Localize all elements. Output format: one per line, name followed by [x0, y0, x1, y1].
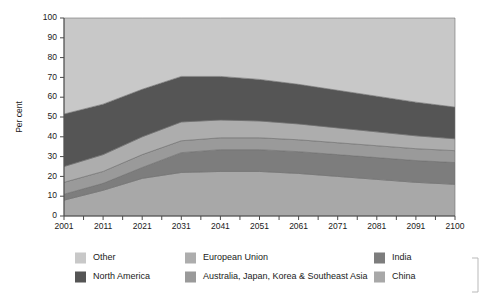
y-tick-label-10: 10: [48, 190, 58, 200]
y-tick-label-20: 20: [48, 171, 58, 181]
legend-label-china: China: [392, 271, 416, 281]
y-tick-label-90: 90: [48, 32, 58, 42]
x-tick-label-2051: 2051: [250, 221, 269, 231]
false: [75, 253, 86, 264]
false: [185, 272, 196, 283]
legend-label-other: Other: [93, 252, 116, 262]
chart-canvas: 0102030405060708090100200120112021203120…: [0, 0, 483, 299]
y-tick-label-40: 40: [48, 131, 58, 141]
chart-legend: OtherEuropean UnionIndiaNorth AmericaAus…: [75, 252, 416, 282]
x-tick-label-2011: 2011: [94, 221, 113, 231]
x-tick-label-2081: 2081: [367, 221, 386, 231]
legend-label-north-america: North America: [93, 271, 150, 281]
x-tick-label-2031: 2031: [172, 221, 191, 231]
y-tick-label-0: 0: [52, 210, 57, 220]
plot-area: [64, 18, 455, 216]
x-tick-label-2041: 2041: [211, 221, 230, 231]
y-tick-label-100: 100: [43, 12, 57, 22]
false: [374, 272, 385, 283]
x-tick-label-2091: 2091: [406, 221, 425, 231]
x-tick-label-2021: 2021: [133, 221, 152, 231]
page-corner-mark: [472, 258, 478, 292]
y-tick-label-60: 60: [48, 91, 58, 101]
x-tick-label-2061: 2061: [289, 221, 308, 231]
y-tick-label-80: 80: [48, 52, 58, 62]
y-tick-label-70: 70: [48, 72, 58, 82]
y-tick-label-30: 30: [48, 151, 58, 161]
x-tick-label-2100: 2100: [446, 221, 465, 231]
legend-label-australia-japan-korea-southeast-asia: Australia, Japan, Korea & Southeast Asia: [203, 271, 368, 281]
y-tick-label-50: 50: [48, 111, 58, 121]
legend-label-india: India: [392, 252, 412, 262]
x-tick-label-2001: 2001: [55, 221, 74, 231]
legend-label-european-union: European Union: [203, 252, 268, 262]
false: [185, 253, 196, 264]
false: [75, 272, 86, 283]
false: [374, 253, 385, 264]
y-axis-title: Per cent: [14, 101, 24, 133]
x-tick-label-2071: 2071: [328, 221, 347, 231]
stacked-area-chart: 0102030405060708090100200120112021203120…: [0, 0, 483, 299]
